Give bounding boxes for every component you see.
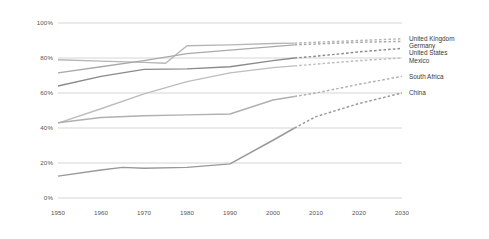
- x-tick-label: 1950: [51, 209, 66, 216]
- series-line-mexico-projected: [295, 58, 403, 66]
- chart-plot-area: 0%20%40%60%80%100% 195019601970198019902…: [0, 0, 489, 239]
- series-line-united-kingdom-historical: [58, 43, 295, 63]
- x-tick-label: 2020: [352, 209, 367, 216]
- line-chart: 0%20%40%60%80%100% 195019601970198019902…: [0, 0, 489, 239]
- y-axis-tick-labels: 0%20%40%60%80%100%: [37, 19, 54, 201]
- series-line-south-africa-historical: [58, 97, 295, 123]
- x-tick-label: 1960: [94, 209, 109, 216]
- x-tick-label: 1970: [137, 209, 152, 216]
- series-line-china-projected: [295, 93, 403, 128]
- y-tick-label: 40%: [40, 124, 53, 131]
- y-tick-label: 80%: [40, 54, 53, 61]
- x-axis-tick-labels: 195019601970198019902000201020202030: [51, 209, 410, 216]
- y-tick-label: 20%: [40, 159, 53, 166]
- y-tick-label: 0%: [44, 194, 54, 201]
- x-tick-label: 2030: [395, 209, 410, 216]
- legend-label-united-states: United States: [409, 49, 447, 56]
- legend: United KingdomGermanyUnited StatesMexico…: [409, 35, 454, 96]
- series-lines: [58, 39, 402, 176]
- y-tick-label: 100%: [37, 19, 54, 26]
- series-line-china-historical: [58, 128, 295, 176]
- series-line-south-africa-projected: [295, 76, 403, 96]
- legend-label-china: China: [409, 89, 426, 96]
- legend-label-mexico: Mexico: [409, 57, 430, 64]
- gridlines: [58, 23, 402, 198]
- x-tick-label: 2000: [266, 209, 281, 216]
- series-line-united-states-projected: [295, 48, 403, 58]
- x-tick-label: 1980: [180, 209, 195, 216]
- x-tick-label: 1990: [223, 209, 238, 216]
- y-tick-label: 60%: [40, 89, 53, 96]
- x-tick-label: 2010: [309, 209, 324, 216]
- series-line-united-states-historical: [58, 58, 295, 86]
- legend-label-south-africa: South Africa: [409, 73, 444, 80]
